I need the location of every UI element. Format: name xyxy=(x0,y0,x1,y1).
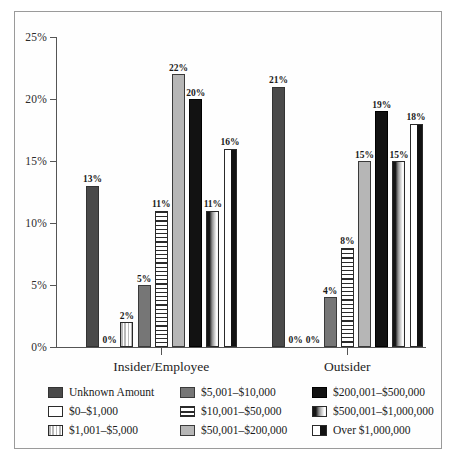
bar-value-label: 4% xyxy=(323,287,337,297)
bar-zero-placeholder: 0% xyxy=(306,335,319,347)
y-axis-tick-label: 20% xyxy=(25,93,47,105)
legend-swatch-icon xyxy=(180,406,195,417)
bar-value-label: 15% xyxy=(389,151,408,161)
bar: 15% xyxy=(358,161,371,347)
bar-value-label: 20% xyxy=(186,89,205,99)
y-axis-tick-label: 5% xyxy=(31,279,47,291)
legend-swatch-icon xyxy=(48,406,63,417)
legend-swatch-icon xyxy=(48,425,63,436)
bar-value-label: 18% xyxy=(407,113,426,123)
legend-swatch-icon xyxy=(48,387,63,398)
bar-value-label: 5% xyxy=(137,275,151,285)
bar: 18% xyxy=(410,124,423,347)
x-axis-group-label: Insider/Employee xyxy=(113,359,209,375)
bar-value-label: 21% xyxy=(269,76,288,86)
plot-area: 0%5%10%15%20%25% 13%0%2%5%11%22%20%11%16… xyxy=(56,37,426,348)
y-axis-tick xyxy=(50,285,56,286)
bar: 13% xyxy=(86,186,99,347)
bar-value-label: 16% xyxy=(221,138,240,148)
legend-item[interactable]: $1,001–$5,000 xyxy=(48,422,180,439)
y-axis-tick-label: 15% xyxy=(25,155,47,167)
legend-item[interactable]: $50,001–$200,000 xyxy=(180,422,312,439)
bar-value-label: 15% xyxy=(355,151,374,161)
legend-item[interactable]: Unknown Amount xyxy=(48,384,180,401)
y-axis-tick-label: 0% xyxy=(31,341,47,353)
x-axis-group-label: Outsider xyxy=(324,359,371,375)
legend-swatch-icon xyxy=(312,406,327,417)
bar-zero-placeholder: 0% xyxy=(103,335,116,347)
chart-legend: Unknown Amount$5,001–$10,000$200,001–$50… xyxy=(48,384,418,439)
y-axis-tick-label: 10% xyxy=(25,217,47,229)
bar-value-label: 13% xyxy=(83,175,102,185)
bar: 4% xyxy=(324,297,337,347)
bar: 20% xyxy=(189,99,202,347)
y-axis-tick xyxy=(50,347,56,348)
bar: 5% xyxy=(138,285,151,347)
legend-label: $5,001–$10,000 xyxy=(201,387,276,399)
y-axis-tick-label: 25% xyxy=(25,31,47,43)
bar: 2% xyxy=(120,322,133,347)
legend-swatch-icon xyxy=(180,425,195,436)
legend-label: Over $1,000,000 xyxy=(333,425,411,437)
legend-label: $50,001–$200,000 xyxy=(201,425,287,437)
bar-value-label: 19% xyxy=(372,101,391,111)
y-axis-tick xyxy=(50,99,56,100)
y-axis-tick xyxy=(50,37,56,38)
legend-item[interactable]: Over $1,000,000 xyxy=(312,422,456,439)
legend-label: Unknown Amount xyxy=(69,387,154,399)
bar-value-label: 2% xyxy=(120,312,134,322)
legend-label: $10,001–$50,000 xyxy=(201,406,282,418)
legend-label: $500,001–$1,000,000 xyxy=(333,406,434,418)
bar-value-label: 8% xyxy=(340,237,354,247)
bar: 22% xyxy=(172,74,185,347)
legend-label: $1,001–$5,000 xyxy=(69,425,138,437)
chart-figure: 0%5%10%15%20%25% 13%0%2%5%11%22%20%11%16… xyxy=(0,0,456,467)
bar-value-label: 0% xyxy=(103,336,117,346)
legend-item[interactable]: $5,001–$10,000 xyxy=(180,384,312,401)
legend-item[interactable]: $500,001–$1,000,000 xyxy=(312,403,456,420)
bar-value-label: 11% xyxy=(204,200,222,210)
bar-value-label: 0% xyxy=(306,336,320,346)
legend-label: $0–$1,000 xyxy=(69,406,118,418)
legend-item[interactable]: $200,001–$500,000 xyxy=(312,384,456,401)
bar: 11% xyxy=(206,211,219,347)
bar-value-label: 11% xyxy=(152,200,170,210)
legend-swatch-icon xyxy=(312,387,327,398)
bar: 16% xyxy=(224,149,237,347)
bar: 19% xyxy=(375,111,388,347)
legend-label: $200,001–$500,000 xyxy=(333,387,425,399)
bar: 21% xyxy=(272,87,285,347)
legend-swatch-icon xyxy=(180,387,195,398)
y-axis-tick xyxy=(50,223,56,224)
x-axis-line xyxy=(56,347,426,348)
bar: 11% xyxy=(155,211,168,347)
bar-value-label: 0% xyxy=(289,336,303,346)
bar: 8% xyxy=(341,248,354,347)
legend-item[interactable]: $10,001–$50,000 xyxy=(180,403,312,420)
legend-swatch-icon xyxy=(312,425,327,436)
bar: 15% xyxy=(392,161,405,347)
bar-zero-placeholder: 0% xyxy=(289,335,302,347)
x-axis-tick xyxy=(347,348,348,355)
y-axis-line xyxy=(56,37,57,348)
x-axis-tick xyxy=(161,348,162,355)
y-axis-tick xyxy=(50,161,56,162)
legend-item[interactable]: $0–$1,000 xyxy=(48,403,180,420)
bar-value-label: 22% xyxy=(169,64,188,74)
